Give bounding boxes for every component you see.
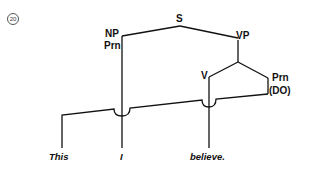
edge-moved-object [62, 94, 268, 148]
word-believe: believe. [190, 152, 225, 162]
node-np: NP [105, 29, 119, 39]
node-s: S [176, 14, 183, 24]
edge-s-np [122, 26, 180, 36]
edge-s-vp [180, 26, 238, 38]
node-np-prn: Prn [104, 41, 121, 51]
node-object-function: (DO) [269, 86, 291, 96]
node-object-prn: Prn [272, 73, 289, 83]
syntax-tree-lines [0, 0, 311, 175]
node-v: V [201, 71, 208, 81]
edge-junction-prn [238, 62, 268, 78]
node-vp: VP [236, 31, 249, 41]
edge-junction-v [209, 62, 238, 77]
word-this: This [49, 152, 69, 162]
word-i: I [120, 152, 123, 162]
